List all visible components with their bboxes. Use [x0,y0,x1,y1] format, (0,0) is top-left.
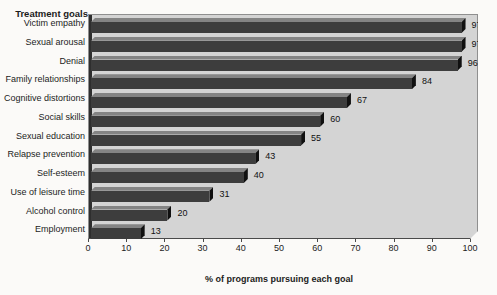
category-labels: Victim empathySexual arousalDenialFamily… [0,14,85,239]
category-label: Relapse prevention [0,145,85,164]
category-label: Cognitive distortions [0,89,85,108]
category-label: Use of leisure time [0,183,85,202]
bar [91,149,259,164]
value-label: 67 [357,93,367,108]
x-tick-label: 40 [226,243,256,253]
bar [91,206,171,221]
value-label: 40 [254,168,264,183]
value-label: 20 [177,206,187,221]
x-tick-mark [432,239,433,242]
bar [91,18,466,33]
bar-front-face [91,22,462,33]
x-tick-mark [470,239,471,242]
bar-front-face [91,191,209,202]
bar [91,187,213,202]
bar-front-face [91,41,462,52]
category-label: Sexual education [0,127,85,146]
x-tick-label: 50 [264,243,294,253]
bar-front-face [91,228,141,239]
value-label: 31 [219,187,229,202]
x-tick-mark [241,239,242,242]
bar-front-face [91,78,412,89]
category-label: Employment [0,220,85,239]
plot-area: 979796846760554340312013 [88,14,478,239]
value-label: 96 [468,56,478,71]
bar-row: 97 [89,34,477,53]
category-label: Denial [0,52,85,71]
bar [91,131,305,146]
value-label: 97 [472,37,482,52]
x-tick-label: 20 [149,243,179,253]
bar [91,168,248,183]
category-label: Alcohol control [0,202,85,221]
x-tick-label: 70 [340,243,370,253]
bar [91,93,351,108]
value-label: 97 [472,18,482,33]
bar-front-face [91,210,167,221]
x-tick-label: 100 [455,243,485,253]
value-label: 43 [265,149,275,164]
bar-row: 84 [89,71,477,90]
x-tick-mark [88,239,89,242]
x-tick-label: 80 [379,243,409,253]
bar [91,224,145,239]
bar-front-face [91,135,301,146]
value-label: 84 [422,74,432,89]
category-label: Family relationships [0,70,85,89]
x-tick-mark [279,239,280,242]
x-tick-mark [394,239,395,242]
bar-front-face [91,97,347,108]
x-axis-title: % of programs pursuing each goal [88,274,470,284]
bar-row: 60 [89,109,477,128]
bar-front-face [91,60,458,71]
category-label: Self-esteem [0,164,85,183]
x-tick-label: 90 [417,243,447,253]
x-tick-mark [164,239,165,242]
x-tick-label: 0 [73,243,103,253]
bar-row: 43 [89,146,477,165]
x-tick-mark [126,239,127,242]
x-tick-mark [317,239,318,242]
bar-front-face [91,116,320,127]
bar-row: 40 [89,165,477,184]
category-label: Sexual arousal [0,33,85,52]
bar-row: 67 [89,90,477,109]
value-label: 60 [330,112,340,127]
x-tick-label: 30 [188,243,218,253]
bar-row: 20 [89,203,477,222]
value-label: 55 [311,131,321,146]
bar-row: 31 [89,184,477,203]
value-label: 13 [151,224,161,239]
bar-row: 97 [89,15,477,34]
category-label: Victim empathy [0,14,85,33]
x-tick-mark [355,239,356,242]
bar-front-face [91,153,255,164]
x-tick-label: 10 [111,243,141,253]
bar-front-face [91,172,244,183]
x-tick-label: 60 [302,243,332,253]
category-label: Social skills [0,108,85,127]
bar [91,112,324,127]
bar-row: 13 [89,221,477,240]
x-tick-mark [203,239,204,242]
bar [91,74,416,89]
bar [91,56,462,71]
bar [91,37,466,52]
bar-chart: Treatment goals Victim empathySexual aro… [0,0,497,295]
bar-row: 96 [89,53,477,72]
bar-row: 55 [89,128,477,147]
x-axis: 0102030405060708090100 [88,239,486,255]
